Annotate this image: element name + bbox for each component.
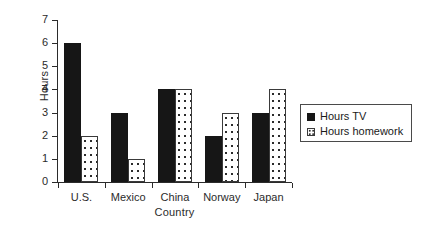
x-axis-category-label: Norway [198, 191, 245, 203]
legend-label: Hours homework [320, 126, 403, 137]
legend-item-hours-tv: Hours TV [307, 109, 406, 124]
y-axis-tick-label: 4 [22, 83, 48, 94]
y-axis-tick-label: 7 [22, 14, 48, 25]
bar-us-hours-homework [81, 136, 98, 182]
bar-norway-hours-tv [205, 136, 222, 182]
bar-mexico-hours-tv [111, 113, 128, 182]
dotted-white-square-icon [307, 128, 315, 136]
y-axis-tick-label-text: 2 [24, 130, 48, 141]
y-axis-tick-label-text: 6 [24, 37, 48, 48]
x-axis-category-label: China [152, 191, 199, 203]
x-axis-category-label: Japan [245, 191, 292, 203]
bar-mexico-hours-homework [128, 159, 145, 182]
y-axis-tick-label-text: 5 [24, 60, 48, 71]
y-axis-tick-label: 3 [22, 107, 48, 118]
x-axis-category-label: U.S. [58, 191, 105, 203]
bar-china-hours-tv [158, 89, 175, 182]
x-axis-tick-mark [198, 183, 199, 188]
y-axis-tick-label: 0 [22, 176, 48, 187]
legend-item-hours-homework: Hours homework [307, 124, 406, 139]
chart-legend: Hours TV Hours homework [300, 104, 412, 142]
y-axis-tick-label: 2 [22, 130, 48, 141]
x-axis-tick-mark [245, 183, 246, 188]
x-axis-tick-mark [292, 183, 293, 188]
y-axis-tick-label-text: 1 [24, 153, 48, 164]
legend-label: Hours TV [320, 111, 366, 122]
x-axis-title: Country [57, 206, 292, 218]
y-axis-tick-label: 5 [22, 60, 48, 71]
solid-black-square-icon [307, 113, 315, 121]
bar-japan-hours-tv [252, 113, 269, 182]
x-axis-tick-mark [105, 183, 106, 188]
bar-us-hours-tv [64, 43, 81, 182]
bar-china-hours-homework [175, 89, 192, 182]
bar-norway-hours-homework [222, 113, 239, 182]
y-axis-tick-label-text: 0 [24, 176, 48, 187]
y-axis-tick-label-text: 7 [24, 14, 48, 25]
y-axis-tick-label: 1 [22, 153, 48, 164]
x-axis-category-label: Mexico [105, 191, 152, 203]
y-axis-tick-label: 6 [22, 37, 48, 48]
x-axis-line [57, 182, 292, 183]
y-axis-tick-label-text: 3 [24, 107, 48, 118]
bar-chart-figure: Hours 01234567 U.S.MexicoChinaNorwayJapa… [0, 0, 422, 229]
bars-layer [58, 20, 292, 182]
x-axis-tick-mark [58, 183, 59, 188]
x-axis-tick-mark [152, 183, 153, 188]
y-axis-tick-label-text: 4 [24, 83, 48, 94]
bar-japan-hours-homework [269, 89, 286, 182]
